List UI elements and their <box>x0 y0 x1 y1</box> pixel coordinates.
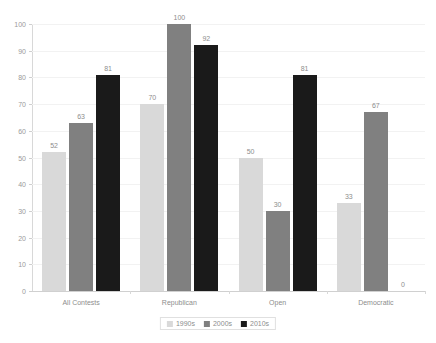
y-tick-label: 10 <box>0 261 26 268</box>
bar[interactable] <box>266 211 290 291</box>
x-tick-mark <box>130 291 131 294</box>
y-tick-label: 0 <box>0 288 26 295</box>
bar[interactable] <box>337 203 361 291</box>
y-tick-label: 70 <box>0 101 26 108</box>
bar-chart: 0102030405060708090100 52638170100925030… <box>0 0 436 343</box>
y-tick-label: 60 <box>0 128 26 135</box>
legend-label: 2000s <box>213 320 232 327</box>
bar[interactable] <box>194 45 218 291</box>
bar-value-label: 52 <box>42 142 66 149</box>
x-tick-mark <box>327 291 328 294</box>
legend-swatch-icon <box>167 321 173 327</box>
bar-value-label: 81 <box>293 65 317 72</box>
legend-item-2010s[interactable]: 2010s <box>241 320 269 327</box>
y-tick-label: 30 <box>0 208 26 215</box>
bar-value-label: 100 <box>167 14 191 21</box>
x-tick-mark <box>425 291 426 294</box>
bar-value-label: 81 <box>96 65 120 72</box>
legend-label: 2010s <box>250 320 269 327</box>
legend-item-2000s[interactable]: 2000s <box>204 320 232 327</box>
bar[interactable] <box>140 104 164 291</box>
y-tick-label: 20 <box>0 235 26 242</box>
y-tick-label: 80 <box>0 74 26 81</box>
bar[interactable] <box>42 152 66 291</box>
y-tick-label: 50 <box>0 155 26 162</box>
bar[interactable] <box>96 75 120 291</box>
bar[interactable] <box>69 123 93 291</box>
legend-item-1990s[interactable]: 1990s <box>167 320 195 327</box>
bar-value-label: 67 <box>364 102 388 109</box>
y-tick-label: 90 <box>0 48 26 55</box>
bar[interactable] <box>293 75 317 291</box>
bar-value-label: 63 <box>69 113 93 120</box>
plot-area: 526381701009250308133670 <box>32 24 425 291</box>
bar-value-label: 0 <box>391 281 415 288</box>
y-tick-label: 100 <box>0 21 26 28</box>
x-axis-label-democratic: Democratic <box>316 299 436 306</box>
bar-value-label: 50 <box>239 148 263 155</box>
y-tick-mark <box>29 291 32 292</box>
bar[interactable] <box>239 158 263 292</box>
legend-swatch-icon <box>241 321 247 327</box>
y-tick-label: 40 <box>0 181 26 188</box>
bar[interactable] <box>167 24 191 291</box>
bar-value-label: 30 <box>266 201 290 208</box>
legend-label: 1990s <box>176 320 195 327</box>
bar-value-label: 70 <box>140 94 164 101</box>
bar-value-label: 33 <box>337 193 361 200</box>
bar[interactable] <box>364 112 388 291</box>
x-tick-mark <box>229 291 230 294</box>
legend-swatch-icon <box>204 321 210 327</box>
bar-value-label: 92 <box>194 35 218 42</box>
chart-legend[interactable]: 1990s2000s2010s <box>160 317 276 330</box>
